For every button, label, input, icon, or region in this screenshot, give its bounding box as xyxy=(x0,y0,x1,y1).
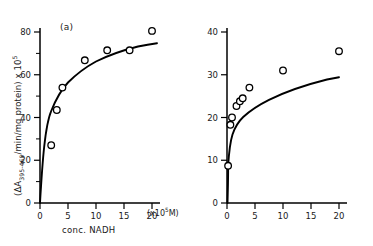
data-point xyxy=(239,95,246,102)
data-point xyxy=(229,114,236,121)
data-point xyxy=(59,84,66,91)
panel-b: 0 10 20 30 40 0 5 10 15 20 (b) xyxy=(187,0,373,246)
panel-a-y-ticks xyxy=(34,32,40,203)
data-point xyxy=(149,28,156,35)
panel-a-x-ticks xyxy=(40,203,152,209)
panel-a-x-axis-unit: (x105M) xyxy=(147,209,179,218)
panel-b-xtick-0: 0 xyxy=(224,211,229,221)
panel-a-xtick-2: 10 xyxy=(91,211,102,221)
panel-b-xtick-2: 10 xyxy=(278,211,289,221)
panel-a-xtick-0: 0 xyxy=(37,211,42,221)
panel-b-x-ticks xyxy=(227,203,339,209)
data-point xyxy=(54,107,61,114)
panel-a-y-axis-label: (ΔA395-460/min/mg protein) x 105 xyxy=(13,56,23,197)
panel-a-ylabel-prefix: (ΔA xyxy=(13,181,23,196)
panel-a-xtick-3: 15 xyxy=(119,211,130,221)
data-point xyxy=(246,84,253,91)
data-point xyxy=(336,48,343,55)
panel-a-xunit-prefix: (x10 xyxy=(147,209,165,218)
panel-b-y-ticks xyxy=(221,32,227,203)
panel-b-ytick-2: 20 xyxy=(207,113,218,123)
figure-container: 0 20 40 60 80 0 5 10 15 20 ( xyxy=(0,0,373,246)
panel-b-plot: 0 10 20 30 40 0 5 10 15 20 xyxy=(187,0,373,246)
panel-a-xtick-1: 5 xyxy=(65,211,70,221)
data-point xyxy=(227,122,234,129)
data-point xyxy=(126,47,133,54)
panel-a-ylabel-mid: /min/mg protein) x 10 xyxy=(13,60,23,155)
panel-b-ytick-4: 40 xyxy=(207,27,218,37)
panel-a: 0 20 40 60 80 0 5 10 15 20 ( xyxy=(0,0,186,246)
panel-a-ylabel-sup: 5 xyxy=(11,56,18,60)
panel-a-ylabel-sub: 395-460 xyxy=(18,155,25,181)
data-point xyxy=(48,142,55,149)
panel-b-ytick-1: 10 xyxy=(207,155,218,165)
panel-b-xtick-1: 5 xyxy=(252,211,257,221)
panel-a-tag: (a) xyxy=(60,22,73,32)
panel-b-ytick-3: 30 xyxy=(207,70,218,80)
data-point xyxy=(225,163,232,170)
panel-b-ytick-0: 0 xyxy=(213,198,218,208)
data-point xyxy=(104,47,111,54)
panel-b-xtick-4: 20 xyxy=(334,211,345,221)
panel-a-ytick-0: 0 xyxy=(26,198,31,208)
data-point xyxy=(82,57,89,64)
panel-b-data-points xyxy=(225,48,342,169)
panel-b-xtick-3: 15 xyxy=(306,211,317,221)
panel-a-xunit-suffix: M) xyxy=(169,209,179,218)
data-point xyxy=(280,67,287,74)
panel-a-fit-curve xyxy=(40,43,157,203)
panel-a-x-axis-label: conc. NADH xyxy=(62,225,115,235)
panel-a-ytick-4: 80 xyxy=(20,27,31,37)
